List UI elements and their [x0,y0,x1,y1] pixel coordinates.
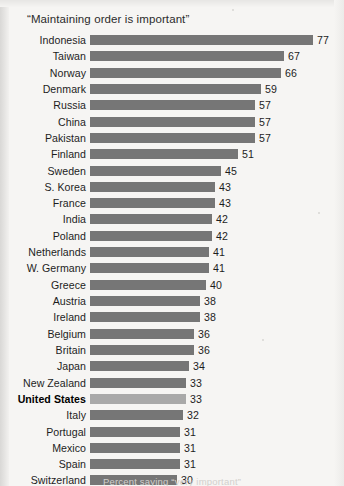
bar-value-label: 36 [198,328,210,340]
bar-value-label: 42 [216,213,228,225]
bar-category-label: Ireland [0,311,86,323]
bar-value-label: 51 [242,148,254,160]
bar-value-label: 57 [259,99,271,111]
bar-row: Finland51 [0,147,344,163]
bar-value-label: 38 [204,295,216,307]
bar [90,378,186,388]
bar [90,214,212,224]
bar-category-label: India [0,213,86,225]
bar-row: Spain31 [0,457,344,473]
bar [90,198,215,208]
bar-row: Poland42 [0,229,344,245]
bar-value-label: 59 [265,83,277,95]
bar-category-label: W. Germany [0,262,86,274]
bar-category-label: Austria [0,295,86,307]
bar-category-label: Belgium [0,328,86,340]
x-axis-caption: Percent saying “very important” [0,476,344,486]
bar-category-label: Pakistan [0,132,86,144]
bar-row: Greece40 [0,278,344,294]
bar-row: Pakistan57 [0,131,344,147]
bar [90,427,180,437]
bar-category-label: Netherlands [0,246,86,258]
bar-row: France43 [0,196,344,212]
bar-category-label: Poland [0,230,86,242]
bar [90,117,255,127]
bar-row: Britain36 [0,343,344,359]
bar-row: Austria38 [0,294,344,310]
bar-value-label: 41 [213,262,225,274]
bar [90,231,212,241]
bar-row: Japan34 [0,359,344,375]
bar-category-label: Russia [0,99,86,111]
bar-value-label: 43 [219,197,231,209]
bar-category-label: Greece [0,279,86,291]
bar-chart-plot-area: Indonesia77Taiwan67Norway66Denmark59Russ… [0,33,344,486]
bar-row: Denmark59 [0,82,344,98]
bar-value-label: 33 [190,377,202,389]
bar [90,280,206,290]
bar-category-label: Norway [0,67,86,79]
bar-row: Taiwan67 [0,49,344,65]
bar [90,84,261,94]
bar-category-label: China [0,116,86,128]
bar-value-label: 57 [259,116,271,128]
bar [90,149,238,159]
bar-row: United States33 [0,392,344,408]
bar [90,182,215,192]
bar-row: W. Germany41 [0,261,344,277]
bar-value-label: 57 [259,132,271,144]
bar-value-label: 77 [317,34,329,46]
bar [90,394,186,404]
bar [90,410,183,420]
bar-value-label: 45 [225,165,237,177]
bar-value-label: 43 [219,181,231,193]
bar-value-label: 67 [288,50,300,62]
bar-row: Sweden45 [0,164,344,180]
bar-category-label: Japan [0,360,86,372]
bar-row: Portugal31 [0,425,344,441]
bar-category-label: Portugal [0,426,86,438]
bar-value-label: 34 [193,360,205,372]
bar-row: Belgium36 [0,327,344,343]
bar [90,296,200,306]
bar-value-label: 33 [190,393,202,405]
bar [90,35,313,45]
bar-category-label: Denmark [0,83,86,95]
bar-category-label: United States [0,393,86,405]
bar-category-label: New Zealand [0,377,86,389]
bar-row: Netherlands41 [0,245,344,261]
bar-value-label: 42 [216,230,228,242]
bar [90,100,255,110]
chart-figure: “Maintaining order is important” Indones… [0,0,344,486]
bar-row: Mexico31 [0,441,344,457]
bar-category-label: Finland [0,148,86,160]
bar-row: Indonesia77 [0,33,344,49]
bar-value-label: 31 [184,442,196,454]
bar-category-label: Italy [0,409,86,421]
bar-category-label: Indonesia [0,34,86,46]
bar-value-label: 40 [210,279,222,291]
bar [90,263,209,273]
bar-category-label: S. Korea [0,181,86,193]
bar [90,329,194,339]
bar-value-label: 38 [204,311,216,323]
bar-row: India42 [0,212,344,228]
scan-speck [232,9,234,11]
bar-category-label: Spain [0,458,86,470]
bar [90,51,284,61]
bar-row: Russia57 [0,98,344,114]
bar [90,166,221,176]
chart-title: “Maintaining order is important” [27,13,189,25]
bar-row: China57 [0,115,344,131]
bar [90,443,180,453]
bar-category-label: Sweden [0,165,86,177]
bar-value-label: 66 [285,67,297,79]
bar-value-label: 32 [187,409,199,421]
scan-artifact-top-edge [0,0,344,7]
bar-value-label: 41 [213,246,225,258]
bar-row: Italy32 [0,408,344,424]
bar-value-label: 36 [198,344,210,356]
bar-value-label: 31 [184,458,196,470]
bar-value-label: 31 [184,426,196,438]
bar [90,361,189,371]
